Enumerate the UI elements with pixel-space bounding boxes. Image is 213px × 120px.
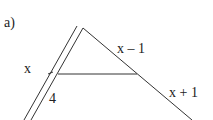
label-left-lower: 4	[49, 92, 56, 106]
label-right-lower: x + 1	[169, 86, 198, 100]
triangle-figure	[0, 0, 213, 120]
label-right-upper: x – 1	[117, 42, 145, 56]
part-label: a)	[4, 16, 15, 30]
label-left-upper: x	[24, 62, 31, 76]
